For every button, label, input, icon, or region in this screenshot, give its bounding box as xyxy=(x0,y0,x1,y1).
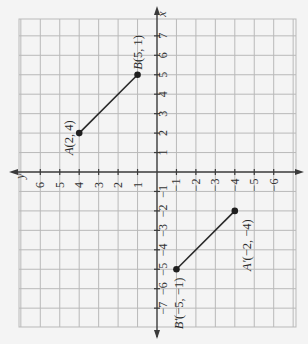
y-tick-label: −3 xyxy=(208,179,222,192)
y-tick-label: 1 xyxy=(131,182,145,188)
x-tick-label: 1 xyxy=(156,150,170,156)
y-tick-label: −2 xyxy=(189,179,203,192)
point-marker xyxy=(134,71,141,78)
y-tick-label: 4 xyxy=(72,182,86,188)
point-label: B(5, 1) xyxy=(131,35,145,70)
y-axis-name: y xyxy=(13,173,27,180)
x-tick-label: 6 xyxy=(156,52,170,58)
x-tick-label: 5 xyxy=(156,72,170,78)
x-tick-label: −4 xyxy=(156,243,170,256)
x-axis-name: x xyxy=(155,11,169,18)
x-tick-label: 3 xyxy=(156,111,170,117)
y-tick-label: 5 xyxy=(53,182,67,188)
point-label: A(2, 4) xyxy=(62,120,76,156)
x-tick-label: −3 xyxy=(156,224,170,237)
point-marker xyxy=(232,208,239,215)
segment-a-prime-b-prime xyxy=(176,211,234,269)
y-axis-arrow-right-icon xyxy=(295,169,304,175)
point-label: B′(−5, −1) xyxy=(172,278,186,330)
y-tick-label: −4 xyxy=(228,179,242,192)
y-tick-label: −5 xyxy=(247,179,261,192)
x-tick-label: 7 xyxy=(156,33,170,39)
segment-ab xyxy=(79,75,137,133)
x-tick-label: 4 xyxy=(156,91,170,97)
y-tick-label: 3 xyxy=(92,182,106,188)
point-label: A′(−2, −4) xyxy=(240,219,254,272)
x-tick-label: −7 xyxy=(156,302,170,315)
x-axis-arrow-down-icon xyxy=(154,330,160,339)
point-marker xyxy=(76,130,83,137)
y-tick-label: −1 xyxy=(169,179,183,192)
x-tick-label: −5 xyxy=(156,263,170,276)
x-tick-label: −1 xyxy=(156,185,170,198)
y-tick-label: 6 xyxy=(33,182,47,188)
x-tick-label: −2 xyxy=(156,205,170,218)
y-tick-label: −6 xyxy=(267,179,281,192)
point-marker xyxy=(173,266,180,273)
y-tick-label: 2 xyxy=(111,182,125,188)
coordinate-grid-figure: xy −7−6−5−4−3−2−11234567−6−5−4−3−2−11234… xyxy=(0,0,308,344)
x-tick-label: 2 xyxy=(156,130,170,136)
x-tick-label: −6 xyxy=(156,282,170,295)
